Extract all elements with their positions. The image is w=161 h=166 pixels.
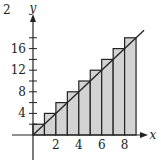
x-tick-label: 4 — [75, 138, 83, 152]
x-tick-label: 6 — [98, 138, 106, 152]
y-tick-label: 12 — [11, 63, 26, 77]
x-tick-label: 8 — [121, 138, 129, 152]
y-tick-label: 16 — [11, 42, 26, 56]
riemann-rectangle — [102, 59, 113, 135]
corner-label: 2 — [3, 3, 11, 17]
y-tick-label: 4 — [18, 106, 26, 120]
y-tick-label: 8 — [18, 85, 26, 99]
x-axis-label: x — [150, 128, 157, 142]
riemann-rectangle — [67, 92, 78, 135]
riemann-rectangle — [79, 81, 90, 135]
y-axis-arrow-icon — [30, 14, 36, 22]
x-axis-arrow-icon — [140, 132, 148, 138]
y-axis-label: y — [29, 1, 37, 15]
riemann-rectangle — [113, 49, 124, 135]
x-tick-label: 2 — [52, 138, 60, 152]
riemann-rectangle — [44, 113, 55, 135]
riemann-sum-diagram: 2468481216xy2 — [0, 0, 161, 166]
riemann-rectangle — [125, 38, 136, 135]
